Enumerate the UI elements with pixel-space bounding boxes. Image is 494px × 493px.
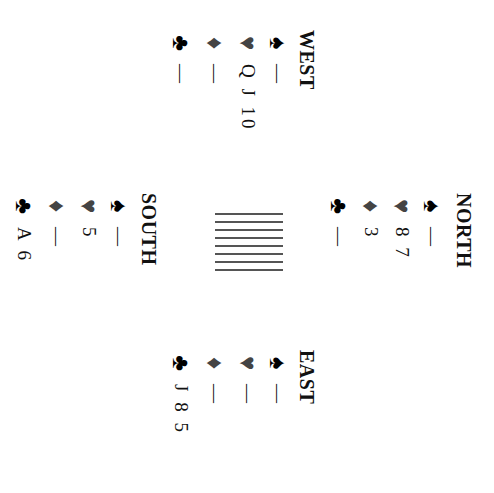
table-line bbox=[215, 269, 283, 271]
table-line bbox=[215, 213, 283, 215]
club-icon: ♣ bbox=[168, 30, 194, 56]
hand-row-hearts: ♥ — bbox=[235, 350, 261, 406]
cards-hearts: — bbox=[237, 384, 259, 406]
cards-spades: — bbox=[421, 227, 443, 249]
spade-icon: ♠ bbox=[419, 193, 445, 219]
hand-row-spades: ♠ — bbox=[265, 30, 291, 86]
seat-name-south: SOUTH bbox=[137, 193, 160, 266]
table-line bbox=[215, 237, 283, 239]
table-line bbox=[215, 245, 283, 247]
table-line bbox=[215, 261, 283, 263]
table-line bbox=[215, 221, 283, 223]
seat-name-north: NORTH bbox=[452, 193, 475, 268]
hand-row-spades: ♠ — bbox=[419, 193, 445, 249]
cards-hearts: 5 bbox=[78, 227, 100, 240]
hand-row-diamonds: ♦ — bbox=[202, 30, 228, 86]
hand-row-hearts: ♥ Q J 10 bbox=[235, 30, 261, 132]
spade-icon: ♠ bbox=[265, 350, 291, 376]
cards-diamonds: — bbox=[204, 64, 226, 86]
spade-icon: ♠ bbox=[265, 30, 291, 56]
club-icon: ♣ bbox=[168, 350, 194, 376]
heart-icon: ♥ bbox=[76, 193, 102, 219]
table-line bbox=[215, 229, 283, 231]
cards-clubs: A 6 bbox=[13, 227, 35, 263]
hand-row-clubs: ♣ A 6 bbox=[11, 193, 37, 263]
club-icon: ♣ bbox=[326, 193, 352, 219]
seat-name-west: WEST bbox=[295, 30, 318, 90]
seat-name-east: EAST bbox=[295, 350, 318, 404]
hand-row-clubs: ♣ — bbox=[326, 193, 352, 249]
hand-row-clubs: ♣ J 8 5 bbox=[168, 350, 194, 435]
hand-row-hearts: ♥ 5 bbox=[76, 193, 102, 240]
heart-icon: ♥ bbox=[235, 350, 261, 376]
diamond-icon: ♦ bbox=[358, 193, 384, 219]
hand-row-spades: ♠ — bbox=[265, 350, 291, 406]
bridge-deal-diagram: NORTH ♠ — ♥ 8 7 ♦ 3 ♣ — WEST ♠ — ♥ Q J 1… bbox=[0, 0, 494, 493]
cards-clubs: J 8 5 bbox=[170, 384, 192, 435]
club-icon: ♣ bbox=[11, 193, 37, 219]
cards-clubs: — bbox=[170, 64, 192, 86]
cards-diamonds: 3 bbox=[360, 227, 382, 240]
diamond-icon: ♦ bbox=[202, 30, 228, 56]
hand-row-spades: ♠ — bbox=[106, 193, 132, 249]
hand-row-diamonds: ♦ — bbox=[202, 350, 228, 406]
hand-row-diamonds: ♦ — bbox=[44, 193, 70, 249]
table-lines-icon bbox=[215, 213, 283, 271]
cards-diamonds: — bbox=[204, 384, 226, 406]
cards-hearts: 8 7 bbox=[391, 227, 413, 260]
hand-row-diamonds: ♦ 3 bbox=[358, 193, 384, 240]
cards-clubs: — bbox=[328, 227, 350, 249]
diamond-icon: ♦ bbox=[202, 350, 228, 376]
diamond-icon: ♦ bbox=[44, 193, 70, 219]
cards-spades: — bbox=[267, 64, 289, 86]
cards-diamonds: — bbox=[46, 227, 68, 249]
heart-icon: ♥ bbox=[235, 30, 261, 56]
cards-spades: — bbox=[108, 227, 130, 249]
spade-icon: ♠ bbox=[106, 193, 132, 219]
cards-spades: — bbox=[267, 384, 289, 406]
hand-row-clubs: ♣ — bbox=[168, 30, 194, 86]
heart-icon: ♥ bbox=[389, 193, 415, 219]
cards-hearts: Q J 10 bbox=[237, 64, 259, 132]
hand-row-hearts: ♥ 8 7 bbox=[389, 193, 415, 260]
table-line bbox=[215, 253, 283, 255]
